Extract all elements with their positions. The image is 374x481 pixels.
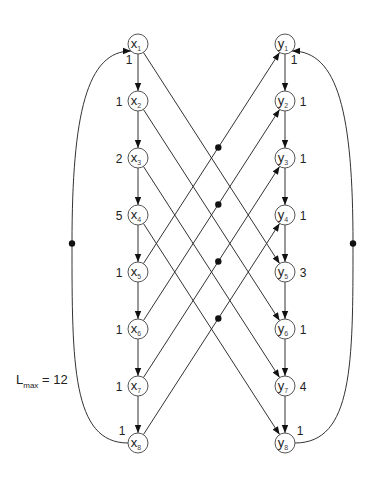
node-weight: 3 <box>300 266 307 280</box>
arc-dot-left <box>69 240 75 246</box>
node-y6: y61 <box>275 319 307 339</box>
lmax-label: Lmax = 12 <box>16 372 68 390</box>
node-weight: 1 <box>300 209 307 223</box>
node-x8: x81 <box>119 424 148 453</box>
node-x7: x71 <box>116 376 148 396</box>
nodes: x11x21x32x45x51x61x71x81y11y21y31y41y53y… <box>116 34 307 453</box>
lmax-value: = 12 <box>38 372 67 387</box>
node-x2: x21 <box>116 91 148 111</box>
node-weight: 1 <box>119 424 126 438</box>
lmax-subscript: max <box>23 381 38 390</box>
node-weight: 1 <box>116 380 123 394</box>
node-weight: 1 <box>126 53 133 67</box>
node-x5: x51 <box>116 262 148 282</box>
node-weight: 1 <box>291 53 298 67</box>
node-y2: y21 <box>275 91 307 111</box>
back-arcs <box>69 51 356 443</box>
node-x6: x61 <box>116 319 148 339</box>
node-y8: y81 <box>275 424 304 453</box>
node-weight: 1 <box>116 323 123 337</box>
node-x3: x32 <box>116 148 148 168</box>
node-y1: y11 <box>275 34 298 67</box>
node-weight: 1 <box>300 152 307 166</box>
node-x4: x45 <box>116 205 148 225</box>
edge-dot <box>215 144 221 150</box>
node-weight: 1 <box>116 95 123 109</box>
edge-dot <box>215 315 221 321</box>
node-weight: 1 <box>116 266 123 280</box>
edge-dot <box>215 201 221 207</box>
node-x1: x11 <box>126 34 148 67</box>
node-y4: y41 <box>275 205 307 225</box>
node-weight: 1 <box>300 323 307 337</box>
node-y7: y74 <box>275 376 307 396</box>
edges <box>138 52 285 434</box>
bipartite-graph-diagram: x11x21x32x45x51x61x71x81y11y21y31y41y53y… <box>0 0 374 481</box>
node-weight: 1 <box>297 424 304 438</box>
node-weight: 2 <box>116 152 123 166</box>
node-y5: y53 <box>275 262 307 282</box>
node-weight: 1 <box>300 95 307 109</box>
node-y3: y31 <box>275 148 307 168</box>
edge-dot <box>215 258 221 264</box>
node-weight: 4 <box>300 380 307 394</box>
arc-dot-right <box>350 240 356 246</box>
node-weight: 5 <box>116 209 123 223</box>
